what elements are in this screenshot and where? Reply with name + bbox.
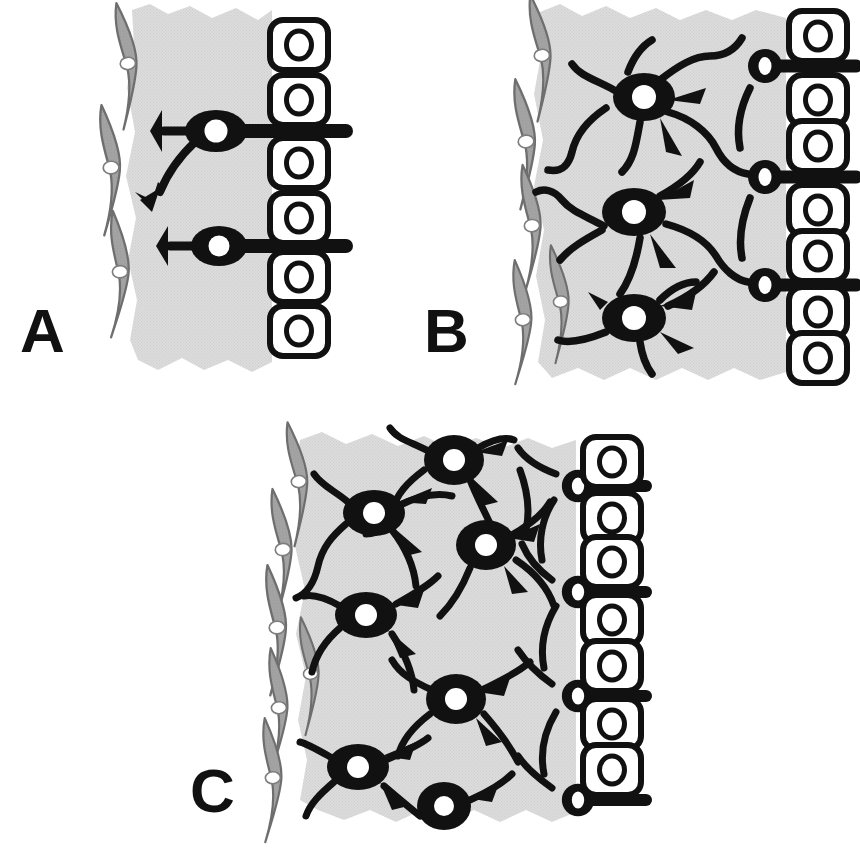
- nucleus: [209, 236, 230, 257]
- epithelial-cell: [270, 306, 328, 356]
- panel-label-c: C: [190, 756, 235, 825]
- epithelial-cell: [789, 231, 847, 281]
- nucleus: [363, 502, 385, 524]
- epithelial-cell: [270, 138, 328, 188]
- nucleus: [443, 449, 465, 471]
- epithelial-cell: [270, 193, 328, 243]
- epithelial-cell: [789, 121, 847, 171]
- epithelial-cell: [270, 20, 328, 70]
- nucleus: [622, 306, 646, 330]
- epithelial-cell: [270, 75, 328, 125]
- nucleus: [632, 85, 656, 109]
- epithelial-cell: [583, 641, 641, 691]
- epithelial-cell: [789, 287, 847, 337]
- epithelial-cell: [583, 595, 641, 645]
- panel-label-b: B: [424, 296, 469, 365]
- nucleus: [434, 796, 454, 816]
- nucleus: [445, 688, 467, 710]
- figure-canvas: A: [0, 0, 860, 849]
- nucleus: [205, 120, 228, 143]
- epithelial-cell: [789, 185, 847, 235]
- epithelial-cell: [583, 437, 641, 487]
- nucleus: [622, 200, 646, 224]
- nucleus: [475, 534, 497, 556]
- nucleus: [355, 604, 377, 626]
- panel-label-a: A: [20, 296, 65, 365]
- epithelial-cell: [789, 333, 847, 383]
- epithelial-cell: [583, 537, 641, 587]
- epithelial-cell: [789, 11, 847, 61]
- epithelial-cell: [583, 699, 641, 749]
- epithelial-cell: [583, 745, 641, 795]
- epithelial-cell: [270, 252, 328, 302]
- nucleus: [347, 756, 369, 778]
- tissue-field-a: [126, 4, 272, 372]
- epithelial-cell: [789, 75, 847, 125]
